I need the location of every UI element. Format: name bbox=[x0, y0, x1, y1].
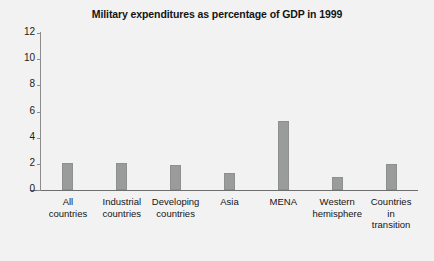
x-axis-line bbox=[30, 190, 418, 191]
bar bbox=[116, 163, 127, 190]
y-tick-mark bbox=[37, 138, 41, 139]
x-axis-label-line: countries bbox=[143, 208, 209, 220]
y-tick-label: 10 bbox=[24, 52, 35, 63]
x-axis-label-line: in bbox=[358, 208, 424, 220]
plot-area: 024681012 bbox=[41, 33, 418, 190]
bar bbox=[386, 164, 397, 190]
chart-title: Military expenditures as percentage of G… bbox=[0, 8, 434, 20]
y-tick-mark bbox=[37, 164, 41, 165]
y-tick-label: 12 bbox=[24, 26, 35, 37]
y-tick-label: 0 bbox=[29, 183, 35, 194]
y-tick-label: 6 bbox=[29, 105, 35, 116]
y-tick-mark bbox=[37, 190, 41, 191]
bar bbox=[278, 121, 289, 190]
y-tick-mark bbox=[37, 59, 41, 60]
bar-chart: Military expenditures as percentage of G… bbox=[0, 0, 434, 261]
y-tick-label: 4 bbox=[29, 131, 35, 142]
y-tick-mark bbox=[37, 85, 41, 86]
bar bbox=[170, 165, 181, 190]
bar bbox=[62, 163, 73, 190]
y-tick-mark bbox=[37, 112, 41, 113]
bar bbox=[332, 177, 343, 190]
y-tick-mark bbox=[37, 33, 41, 34]
x-axis-label-line: transition bbox=[358, 219, 424, 231]
y-tick-label: 2 bbox=[29, 157, 35, 168]
bar bbox=[224, 173, 235, 190]
x-axis-label-line: Countries bbox=[358, 196, 424, 208]
y-tick-label: 8 bbox=[29, 78, 35, 89]
x-axis-label: Countriesintransition bbox=[358, 196, 424, 231]
